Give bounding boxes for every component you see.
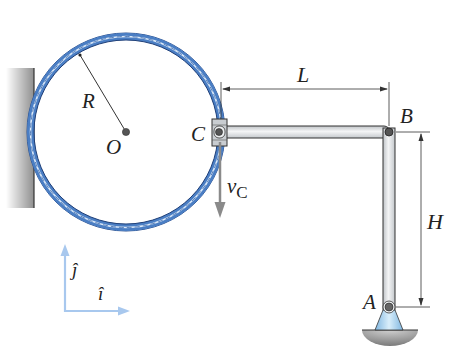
radius-label: R bbox=[81, 89, 95, 113]
unit-axes bbox=[61, 244, 131, 316]
velocity-label: vC bbox=[227, 174, 248, 202]
length-label: L bbox=[296, 62, 309, 87]
dimension-L bbox=[221, 82, 389, 126]
collar-label: C bbox=[191, 122, 206, 146]
collar-C bbox=[212, 119, 227, 146]
center-point bbox=[122, 128, 129, 135]
dimension-H bbox=[396, 132, 430, 307]
bar-BA bbox=[383, 128, 395, 310]
bar-CB bbox=[218, 126, 390, 138]
pin-b-label: B bbox=[400, 104, 413, 128]
height-label: H bbox=[426, 209, 444, 234]
pin-a-label: A bbox=[361, 290, 376, 314]
unit-j-label: ĵ bbox=[69, 259, 79, 280]
pin-B bbox=[385, 128, 393, 136]
center-label: O bbox=[106, 135, 121, 159]
mechanism-diagram: R O L C vC B H bbox=[0, 0, 472, 364]
unit-i-label: î bbox=[98, 283, 105, 304]
